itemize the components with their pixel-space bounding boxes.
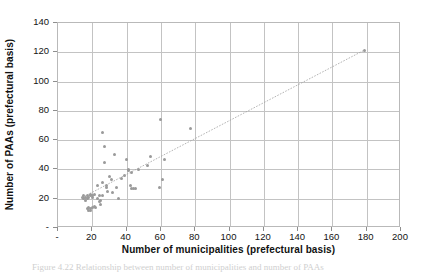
gridline-vertical: [161, 23, 162, 226]
scatter-point: [117, 197, 120, 200]
x-tick-label-text: 60: [155, 231, 166, 242]
scatter-point: [149, 155, 152, 158]
y-axis-title: Number of PAAs (prefectural basis): [3, 22, 17, 227]
scatter-point: [106, 190, 109, 193]
scatter-point: [115, 186, 118, 189]
gridline-vertical: [298, 23, 299, 226]
y-tick-label-text: -: [46, 222, 49, 232]
x-axis-title: Number of municipalities (prefectural ba…: [57, 244, 400, 255]
scatter-point: [189, 127, 192, 130]
scatter-point: [101, 181, 104, 184]
scatter-point: [130, 171, 133, 174]
figure-container: Number of PAAs (prefectural basis) -2040…: [0, 0, 421, 277]
x-tick-label-text: 80: [189, 231, 200, 242]
gridline-horizontal: [58, 52, 399, 53]
scatter-point: [91, 196, 94, 199]
scatter-point: [105, 184, 108, 187]
gridline-horizontal: [58, 82, 399, 83]
scatter-point: [103, 161, 106, 164]
scatter-point: [101, 131, 104, 134]
scatter-point: [125, 158, 128, 161]
x-tick-label-text: 180: [358, 231, 374, 242]
scatter-point: [96, 184, 99, 187]
scatter-chart: Number of PAAs (prefectural basis) -2040…: [0, 0, 421, 248]
scatter-point: [110, 178, 113, 181]
scatter-point: [134, 187, 137, 190]
gridline-vertical: [127, 23, 128, 226]
gridline-horizontal: [58, 199, 399, 200]
scatter-point: [137, 168, 140, 171]
y-tick-label-text: 60: [38, 134, 49, 144]
scatter-point: [163, 158, 166, 161]
gridline-vertical: [195, 23, 196, 226]
scatter-point: [113, 153, 116, 156]
scatter-point: [99, 203, 102, 206]
y-tick-label-text: 40: [38, 163, 49, 173]
x-tick-label-text: 140: [289, 231, 305, 242]
scatter-point: [93, 193, 96, 196]
scatter-point: [111, 191, 114, 194]
y-axis-title-text: Number of PAAs (prefectural basis): [5, 39, 16, 211]
scatter-point: [103, 145, 106, 148]
x-tick-label-text: 100: [221, 231, 237, 242]
scatter-point: [161, 178, 164, 181]
scatter-point: [99, 199, 102, 202]
x-tick-label-text: 20: [86, 231, 97, 242]
plot-area: [57, 22, 400, 227]
gridline-vertical: [332, 23, 333, 226]
y-tick-label-text: 140: [33, 17, 49, 27]
scatter-point: [159, 118, 162, 121]
x-tick-label-text: -: [55, 231, 58, 242]
gridline-vertical: [264, 23, 265, 226]
x-tick-label-text: 120: [255, 231, 271, 242]
gridline-horizontal: [58, 140, 399, 141]
trendline: [58, 23, 399, 226]
x-tick-label-text: 200: [392, 231, 408, 242]
scatter-point: [101, 194, 104, 197]
x-tick-label-text: 160: [323, 231, 339, 242]
scatter-point: [94, 206, 97, 209]
scatter-point: [120, 177, 123, 180]
scatter-point: [146, 164, 149, 167]
y-tick-label-text: 20: [38, 193, 49, 203]
gridline-horizontal: [58, 169, 399, 170]
gridline-vertical: [230, 23, 231, 226]
y-tick-label-text: 80: [38, 105, 49, 115]
y-tick-label-text: 100: [33, 76, 49, 86]
figure-caption: Figure 4.22 Relationship between number …: [32, 262, 410, 274]
gridline-vertical: [367, 23, 368, 226]
x-tick-label-text: 40: [120, 231, 131, 242]
gridline-horizontal: [58, 111, 399, 112]
y-tick-label-text: 120: [33, 46, 49, 56]
scatter-point: [158, 186, 161, 189]
